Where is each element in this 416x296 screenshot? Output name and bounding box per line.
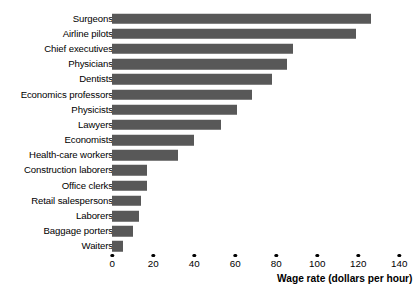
wage-rate-bar-chart: SurgeonsAirline pilotsChief executivesPh… — [0, 0, 416, 296]
bar-row: Chief executives — [0, 41, 416, 56]
category-label: Economics professors — [21, 90, 113, 100]
bar-track — [112, 165, 147, 176]
x-axis: Wage rate (dollars per hour) 02040608010… — [0, 254, 416, 296]
category-label: Physicists — [71, 105, 113, 115]
axis-tick-label: 80 — [271, 259, 282, 269]
bar-track — [112, 150, 178, 161]
plot-area: SurgeonsAirline pilotsChief executivesPh… — [0, 11, 416, 254]
axis-tick-label: 20 — [148, 259, 159, 269]
bar — [112, 89, 251, 100]
bar-row: Physicians — [0, 57, 416, 72]
bar — [112, 135, 194, 146]
bar-row: Baggage porters — [0, 224, 416, 239]
bar — [112, 29, 356, 40]
bar — [112, 74, 272, 85]
bar-track — [112, 74, 272, 85]
bar-track — [112, 196, 141, 207]
bar-track — [112, 120, 221, 131]
axis-tick-label: 40 — [189, 259, 200, 269]
bar — [112, 104, 237, 115]
bar — [112, 59, 286, 70]
bar-row: Economists — [0, 133, 416, 148]
bar-track — [112, 180, 147, 191]
category-label: Airline pilots — [63, 29, 113, 39]
axis-tick-label: 0 — [110, 259, 115, 269]
bar — [112, 13, 370, 24]
axis-tick-label: 140 — [391, 259, 407, 269]
category-label: Surgeons — [73, 14, 113, 24]
bar — [112, 180, 147, 191]
bar-track — [112, 211, 139, 222]
bar — [112, 226, 133, 237]
axis-tick-dot — [193, 254, 196, 257]
bar-row: Airline pilots — [0, 26, 416, 41]
category-label: Baggage porters — [44, 226, 113, 236]
bar — [112, 165, 147, 176]
bar — [112, 211, 139, 222]
bar-track — [112, 44, 292, 55]
bar-track — [112, 104, 237, 115]
axis-tick-label: 100 — [309, 259, 325, 269]
category-label: Economists — [64, 135, 113, 145]
category-label: Dentists — [79, 75, 113, 85]
bar-row: Surgeons — [0, 11, 416, 26]
axis-tick-dot — [398, 254, 401, 257]
axis-tick-dot — [357, 254, 360, 257]
bar — [112, 241, 122, 252]
category-label: Waiters — [82, 242, 113, 252]
bar-row: Waiters — [0, 239, 416, 254]
category-label: Retail salespersons — [31, 196, 113, 206]
bar-row: Construction laborers — [0, 163, 416, 178]
axis-tick-dot — [152, 254, 155, 257]
axis-tick-dot — [234, 254, 237, 257]
category-label: Chief executives — [44, 44, 113, 54]
bar-row: Dentists — [0, 72, 416, 87]
axis-tick-dot — [316, 254, 319, 257]
bar-track — [112, 13, 370, 24]
bar — [112, 44, 292, 55]
category-label: Health-care workers — [29, 150, 113, 160]
axis-tick-label: 120 — [350, 259, 366, 269]
bar-row: Lawyers — [0, 117, 416, 132]
bar-row: Physicists — [0, 102, 416, 117]
axis-tick-label: 60 — [230, 259, 241, 269]
bar-track — [112, 29, 356, 40]
bar-row: Retail salespersons — [0, 193, 416, 208]
bar-track — [112, 135, 194, 146]
bar-row: Economics professors — [0, 87, 416, 102]
bar-track — [112, 89, 251, 100]
bar — [112, 196, 141, 207]
bar-row: Office clerks — [0, 178, 416, 193]
bar-track — [112, 59, 286, 70]
bar-row: Laborers — [0, 208, 416, 223]
axis-tick-dot — [275, 254, 278, 257]
bar-track — [112, 226, 133, 237]
axis-tick-dot — [111, 254, 114, 257]
category-label: Physicians — [68, 59, 113, 69]
bar-track — [112, 241, 122, 252]
bar — [112, 150, 178, 161]
bar-row: Health-care workers — [0, 148, 416, 163]
bar — [112, 120, 221, 131]
category-label: Office clerks — [62, 181, 113, 191]
x-axis-title: Wage rate (dollars per hour) — [277, 274, 412, 284]
category-label: Lawyers — [78, 120, 113, 130]
category-label: Laborers — [76, 211, 113, 221]
category-label: Construction laborers — [24, 166, 113, 176]
